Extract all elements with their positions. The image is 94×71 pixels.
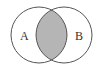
venn-diagram: A B: [0, 0, 94, 71]
label-b: B: [75, 29, 83, 43]
label-a: A: [20, 29, 29, 43]
